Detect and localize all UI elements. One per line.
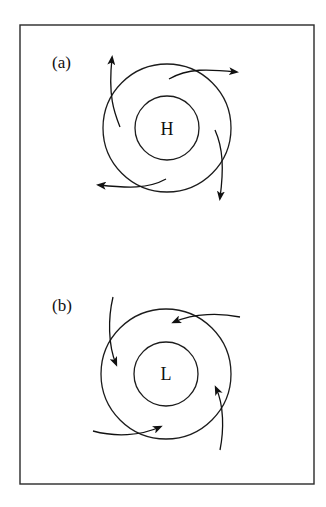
pressure-circulation-diagram: (a) H (b) L [0,0,326,507]
panel-b-label: (b) [52,296,72,315]
panel-b-arrow-up-icon [216,388,223,450]
panel-b-arrow-right-icon [93,427,160,435]
figure-frame [20,25,314,484]
panel-a-arrow-down-icon [215,130,222,198]
high-pressure-label: H [161,119,174,139]
panel-a-arrow-up-icon [111,58,120,127]
low-pressure-label: L [161,364,172,384]
panel-a-arrow-left-icon [99,179,166,187]
panel-b-low-pressure: (b) L [52,296,240,450]
panel-a-high-pressure: (a) H [52,53,236,198]
panel-a-label: (a) [52,53,71,72]
panel-b-arrow-down-icon [110,297,116,364]
panel-b-arrow-left-icon [174,314,240,322]
